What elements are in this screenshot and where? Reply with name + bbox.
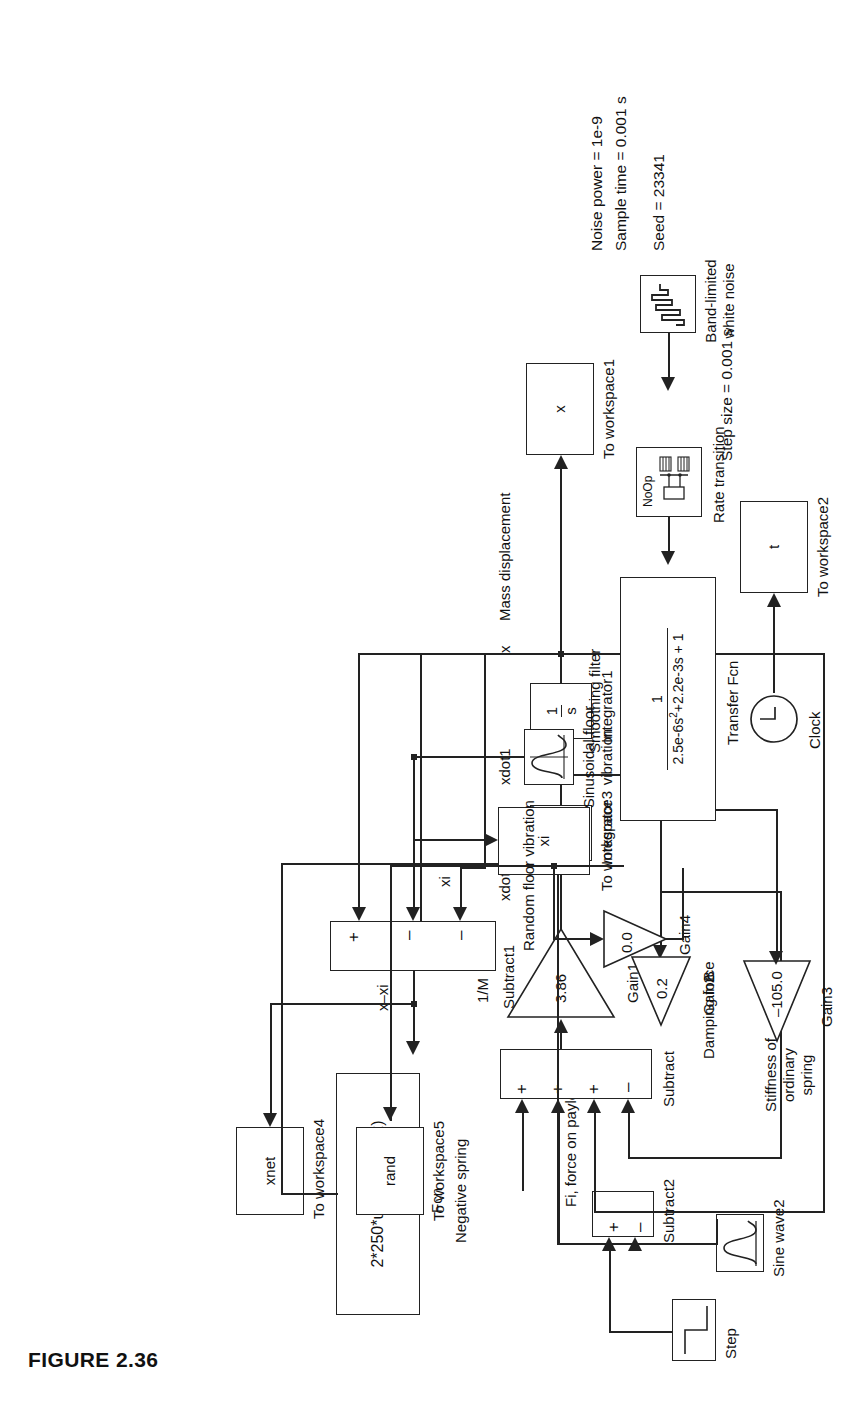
x-signal-label: x	[496, 646, 514, 654]
wire-random-floor-main	[390, 865, 554, 867]
sine-floor-icon	[528, 733, 570, 781]
wire-rand-h	[390, 865, 392, 1001]
block-diagram-canvas: Step Sine wave2 + – Subtract2	[0, 0, 845, 1421]
clock-block[interactable]	[748, 693, 800, 745]
wire-gain4-out-v	[664, 938, 684, 940]
wire-into-gain4-h	[553, 866, 555, 940]
wire-fcn-out-h	[281, 863, 283, 1195]
arrow-into-gain3	[769, 951, 783, 965]
wire-x-to-subtract1	[420, 655, 422, 921]
wire-x-branch-v	[420, 653, 560, 655]
xi-signal-label: xi	[436, 876, 454, 887]
wire-into-gain4-v	[554, 938, 592, 940]
arrow-into-subtract-4	[621, 1099, 635, 1113]
subtract1-sign-1: +	[345, 932, 362, 942]
wire-xnet-branch-v	[270, 1003, 414, 1005]
wire-rand-h2	[390, 997, 392, 1121]
gain3-value: –105.0	[768, 971, 785, 1017]
to-workspace2-label: To workspace2	[814, 497, 832, 597]
wire-subtract2-out-h2	[522, 1113, 524, 1157]
svg-text:NoOp: NoOp	[641, 475, 655, 507]
subtract1-label: Subtract1	[500, 945, 518, 1009]
gain4-triangle-icon	[602, 909, 668, 969]
wire-into-subtract-4-v	[628, 1157, 781, 1159]
rotated-figure-container: Step Sine wave2 + – Subtract2	[0, 0, 845, 1421]
wire-gain4-out-h	[682, 868, 684, 940]
to-workspace4-block[interactable]: xnet	[236, 1127, 304, 1215]
to-workspace4-label: To workspace4	[310, 1119, 328, 1219]
wire-x-to-subtract1-h2	[358, 653, 360, 907]
wire-step-to-subtract2	[609, 1251, 611, 1331]
wire-x-to-subtract1-v	[358, 653, 420, 655]
arrow-gain4-to-subtract1	[453, 907, 467, 921]
white-noise-icon	[646, 280, 690, 328]
wire-sine2-h	[716, 1219, 718, 1245]
to-workspace5-label: To workspace5	[430, 1121, 448, 1221]
arrow-clock-to-workspace2	[767, 593, 781, 607]
wire-xnet-branch-h	[270, 1003, 272, 1121]
noise-power-annotation: Noise power = 1e-9	[586, 116, 608, 251]
sine-floor-block[interactable]	[524, 729, 574, 785]
xdot1-label: xdot1	[496, 748, 514, 785]
to-workspace5-block[interactable]: rand	[356, 1127, 424, 1215]
wire-into-subtract-4-v2	[704, 891, 782, 893]
wire-xi-source-v	[413, 756, 525, 758]
wire-gain4-to-subtract1	[460, 867, 462, 907]
wire-clock-to-workspace2	[773, 605, 775, 693]
wire-gain1-to-integrator	[560, 875, 562, 929]
arrow-subtract1-to-fcn	[406, 1041, 420, 1055]
gain1-note-invM: 1/M	[474, 978, 492, 1003]
rate-transition-icon: NoOp	[638, 449, 700, 515]
gain2-value: 0.2	[653, 978, 670, 999]
integrator1-den: s	[561, 705, 579, 717]
wire-long-feedback-left	[557, 1243, 637, 1245]
to-workspace5-value: rand	[381, 1156, 398, 1186]
arrow-to-workspace4	[263, 1113, 277, 1127]
arrow-into-subtract-3	[587, 1099, 601, 1113]
to-workspace3-label: To workspace3	[598, 791, 616, 891]
x-minus-xi-label: x–xi	[374, 984, 392, 1011]
step-block[interactable]	[672, 1299, 716, 1361]
to-workspace1-block[interactable]: x	[526, 363, 594, 455]
to-workspace1-label: To workspace1	[600, 359, 618, 459]
gain4-name: Gain4	[676, 915, 694, 955]
smoothing-filter-label: Smoothing filter	[586, 649, 604, 753]
sine-wave-icon	[720, 1218, 760, 1268]
subtract-label: Subtract	[660, 1051, 678, 1107]
wire-into-subtract-4	[628, 1113, 630, 1159]
sine-wave2-block[interactable]	[716, 1214, 764, 1272]
arrow-into-subtract-1	[515, 1099, 529, 1113]
sample-time-annotation: Sample time = 0.001 s	[610, 96, 632, 251]
fcn-note-negative-spring: Negative spring	[452, 1139, 470, 1243]
to-workspace4-value: xnet	[261, 1157, 278, 1185]
subtract-sign-1: +	[513, 1084, 530, 1094]
subtract1-block[interactable]	[330, 921, 496, 971]
band-limited-white-noise-label: Band-limited white noise	[702, 253, 738, 349]
arrow-into-gain4	[590, 932, 604, 946]
wire-step-to-subtract2-v	[609, 1331, 672, 1333]
wire-into-subtract-3	[594, 1113, 596, 1213]
gain4-value: 0.0	[618, 932, 635, 953]
wire-gain4-to-subtract1-v	[460, 867, 486, 869]
transfer-fcn-num: 1	[649, 628, 667, 771]
to-workspace2-block[interactable]: t	[740, 501, 808, 593]
integrator1-fraction: 1 s	[543, 705, 579, 717]
wire-tf-out-v	[554, 865, 624, 867]
mass-displacement-label: Mass displacement	[496, 493, 514, 621]
wire-fcn-out-h2	[557, 863, 559, 1245]
subtract1-sign-2: –	[400, 931, 417, 940]
gain1-value: 3.86	[552, 974, 569, 1003]
gain3-name: Gain3	[818, 987, 836, 1027]
arrow-xi-to-workspace3	[484, 833, 498, 847]
wire-to-gain3-h	[776, 809, 778, 959]
wire-fcn-out-v	[282, 1193, 338, 1195]
seed-annotation: Seed = 23341	[648, 154, 670, 251]
band-limited-white-noise-block[interactable]	[640, 275, 696, 333]
subtract-sign-4: –	[619, 1083, 636, 1092]
subtract-sign-3: +	[585, 1084, 602, 1094]
gain4-block[interactable]	[602, 909, 668, 969]
rate-transition-block[interactable]: NoOp	[636, 447, 702, 517]
transfer-fcn-block[interactable]: 1 2.5e-6s2+2.2e-3s + 1	[620, 577, 716, 821]
arrow-noise-to-ratetrans	[661, 377, 675, 391]
transfer-fcn-den: 2.5e-6s2+2.2e-3s + 1	[667, 628, 687, 771]
